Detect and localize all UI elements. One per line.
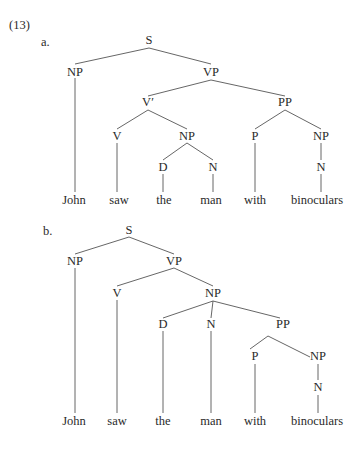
tree-node-np2: NP <box>205 286 221 300</box>
tree-node-n1: N <box>206 317 215 331</box>
terminal-word: saw <box>109 193 128 207</box>
terminal-word: binoculars <box>291 193 343 207</box>
tree-edge <box>117 268 174 286</box>
tree-node-pp: PP <box>276 317 290 331</box>
tree-edge <box>255 110 285 129</box>
tree-node-v: V <box>112 129 121 143</box>
tree-edge <box>213 301 280 318</box>
tree-node-np3: NP <box>310 349 326 363</box>
terminal-word: with <box>244 414 267 428</box>
tree-node-n2: N <box>316 160 325 174</box>
tree-node-d: D <box>158 317 167 331</box>
tree-node-n1: N <box>208 160 217 174</box>
terminal-word: binoculars <box>291 414 343 428</box>
tree-edge <box>174 268 213 286</box>
tree-edge <box>163 301 213 318</box>
tree-node-vbar: V′ <box>142 95 154 109</box>
terminal-word: with <box>244 193 267 207</box>
terminal-word: saw <box>107 414 126 428</box>
tree-edge <box>148 110 187 129</box>
example-number: (13) <box>9 18 30 32</box>
tree-node-np1: NP <box>67 65 83 79</box>
tree-label: a. <box>41 35 50 49</box>
tree-edge <box>148 80 211 96</box>
syntax-tree-diagram: (13) a.SNPVPV′PPVNPPNPDNNJohnsawthemanwi… <box>0 0 364 450</box>
tree-node-np1: NP <box>67 254 83 268</box>
tree-b: b.SNPVPVNPDNPPPNPNJohnsawthemanwithbinoc… <box>43 223 343 428</box>
tree-edge <box>75 237 129 254</box>
tree-edge <box>117 110 148 129</box>
tree-node-v: V <box>112 286 121 300</box>
terminal-word: John <box>62 193 86 207</box>
tree-edge <box>163 143 187 160</box>
terminal-word: the <box>155 414 171 428</box>
tree-edge <box>187 143 213 160</box>
terminal-word: man <box>200 193 222 207</box>
terminal-word: man <box>200 414 222 428</box>
tree-node-pp: PP <box>278 95 292 109</box>
tree-node-np2: NP <box>179 129 195 143</box>
tree-a: a.SNPVPV′PPVNPPNPDNNJohnsawthemanwithbin… <box>41 33 343 207</box>
tree-edge <box>285 110 321 129</box>
terminal-word: the <box>156 193 172 207</box>
tree-edge <box>211 80 285 96</box>
terminal-word: John <box>62 414 86 428</box>
tree-edge <box>149 48 211 64</box>
tree-edge <box>268 336 310 357</box>
tree-node-n2: N <box>313 380 322 394</box>
tree-edge <box>129 237 174 254</box>
tree-edge <box>250 336 268 349</box>
tree-label: b. <box>43 224 52 238</box>
tree-node-np3: NP <box>313 129 329 143</box>
tree-edge <box>211 301 213 318</box>
tree-node-p: P <box>252 129 259 143</box>
tree-node-s: S <box>126 223 133 237</box>
tree-node-s: S <box>146 33 153 47</box>
tree-node-p: P <box>252 349 259 363</box>
tree-node-vp: VP <box>203 65 219 79</box>
tree-edge <box>75 48 149 64</box>
tree-node-d: D <box>158 160 167 174</box>
tree-node-vp: VP <box>166 254 182 268</box>
